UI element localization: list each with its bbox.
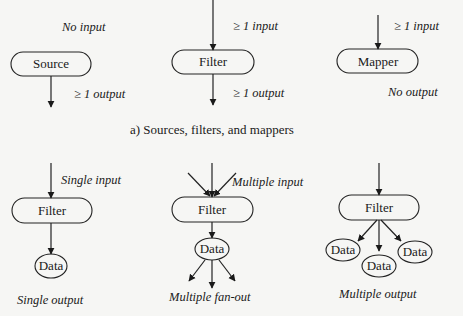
source-group: No input Source ≥ 1 output [11, 20, 126, 107]
fanout-data-label: Data [200, 241, 225, 256]
multi-data-label-left: Data [331, 242, 356, 257]
fanout-input-arrow-left [188, 173, 210, 196]
mapper-input-label: ≥ 1 input [394, 19, 440, 33]
filter-group: ≥ 1 input Filter ≥ 1 output [172, 0, 285, 105]
single-data-label: Data [39, 258, 64, 273]
source-output-label: ≥ 1 output [74, 87, 126, 101]
multi-data-label-center: Data [367, 258, 392, 273]
panel-a-caption: a) Sources, filters, and mappers [130, 122, 294, 137]
multi-out-arrow-right [381, 220, 401, 241]
single-output-group: Single input Filter Data Single output [12, 163, 122, 307]
pipeline-diagram: No input Source ≥ 1 output ≥ 1 input Fil… [0, 0, 463, 316]
multi-output-group: Filter Data Data Data Multiple output [326, 163, 432, 301]
source-input-label: No input [61, 20, 106, 34]
source-node-label: Source [33, 56, 69, 71]
mapper-group: ≥ 1 input Mapper No output [337, 15, 440, 99]
multi-filter-label: Filter [365, 200, 394, 215]
single-input-label: Single input [61, 173, 122, 187]
fanout-input-label: Multiple input [231, 175, 304, 189]
filter-output-label: ≥ 1 output [233, 86, 285, 100]
fanout-filter-label: Filter [198, 202, 227, 217]
mapper-node-label: Mapper [358, 54, 399, 69]
fanout-group: Multiple input Filter Data Multiple fan-… [168, 163, 304, 304]
single-filter-label: Filter [38, 203, 67, 218]
filter-input-label: ≥ 1 input [233, 19, 279, 33]
filter-node-label: Filter [199, 54, 228, 69]
mapper-output-label: No output [387, 85, 438, 99]
multi-data-label-right: Data [403, 244, 428, 259]
multi-out-arrow-left [358, 220, 377, 241]
fanout-out-arrow-left [189, 260, 205, 281]
fanout-caption: Multiple fan-out [168, 290, 251, 304]
multi-output-caption: Multiple output [338, 287, 417, 301]
fanout-out-arrow-right [219, 260, 235, 281]
single-output-caption: Single output [17, 293, 84, 307]
